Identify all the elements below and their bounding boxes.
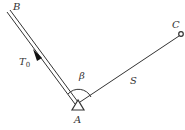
edge-a-c xyxy=(80,36,179,102)
point-a-triangle-icon xyxy=(72,100,84,110)
point-c-marker xyxy=(179,32,184,37)
label-c: C xyxy=(172,19,180,30)
label-s: S xyxy=(130,75,137,86)
label-beta: β xyxy=(78,70,85,81)
label-t-subscript: 0 xyxy=(26,61,30,69)
edge-a-b xyxy=(7,10,78,104)
label-a: A xyxy=(73,114,81,125)
label-b: B xyxy=(12,1,20,12)
label-t0: T0 xyxy=(19,56,30,69)
survey-diagram: B C A S β T0 xyxy=(0,0,185,130)
